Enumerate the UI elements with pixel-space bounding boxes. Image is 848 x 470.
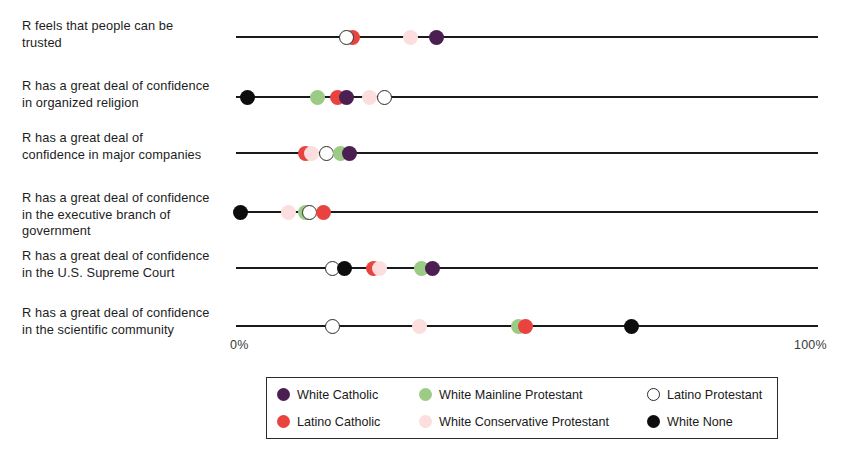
row-axis <box>236 24 818 50</box>
legend-label: White Catholic <box>297 388 378 402</box>
legend-item[interactable]: Latino Catholic <box>277 415 419 429</box>
row-label: R has a great deal of confidence in orga… <box>22 78 234 111</box>
legend-swatch-icon <box>277 415 290 428</box>
row-axis <box>236 84 818 110</box>
row-axis <box>236 199 818 225</box>
row-label: R has a great deal of confidence in the … <box>22 248 234 281</box>
data-point[interactable] <box>337 261 352 276</box>
data-point[interactable] <box>362 90 377 105</box>
row-label: R has a great deal of confidence in the … <box>22 190 234 240</box>
data-point[interactable] <box>304 146 319 161</box>
legend-label: Latino Catholic <box>297 415 380 429</box>
row-label: R has a great deal of confidence in the … <box>22 305 234 338</box>
data-point[interactable] <box>377 90 392 105</box>
legend-item[interactable]: Latino Protestant <box>647 388 789 402</box>
row-axis <box>236 313 818 339</box>
data-point[interactable] <box>342 146 357 161</box>
legend-item[interactable]: White Mainline Protestant <box>419 388 647 402</box>
legend-swatch-icon <box>419 415 432 428</box>
data-point[interactable] <box>624 319 639 334</box>
row-axis <box>236 255 818 281</box>
axis-line <box>236 267 818 269</box>
legend-item[interactable]: White Catholic <box>277 388 419 402</box>
axis-tick-left: 0% <box>230 338 248 352</box>
legend-swatch-icon <box>647 388 660 401</box>
row-label: R feels that people can be trusted <box>22 18 234 51</box>
legend-swatch-icon <box>277 388 290 401</box>
data-point[interactable] <box>339 90 354 105</box>
data-point[interactable] <box>316 205 331 220</box>
data-point[interactable] <box>429 30 444 45</box>
legend-swatch-icon <box>419 388 432 401</box>
data-point[interactable] <box>240 90 255 105</box>
legend-label: White Mainline Protestant <box>439 388 583 402</box>
row-label: R has a great deal of confidence in majo… <box>22 130 234 163</box>
chart-legend: White CatholicWhite Mainline ProtestantL… <box>266 377 778 439</box>
data-point[interactable] <box>310 90 325 105</box>
data-point[interactable] <box>281 205 296 220</box>
data-point[interactable] <box>372 261 387 276</box>
legend-item[interactable]: White None <box>647 415 789 429</box>
data-point[interactable] <box>319 146 334 161</box>
dot-plot-chart: R feels that people can be trustedR has … <box>0 0 848 470</box>
axis-line <box>236 36 818 38</box>
data-point[interactable] <box>412 319 427 334</box>
row-axis <box>236 140 818 166</box>
legend-label: Latino Protestant <box>667 388 762 402</box>
data-point[interactable] <box>325 319 340 334</box>
legend-grid: White CatholicWhite Mainline ProtestantL… <box>267 378 777 438</box>
data-point[interactable] <box>518 319 533 334</box>
data-point[interactable] <box>403 30 418 45</box>
data-point[interactable] <box>425 261 440 276</box>
axis-tick-right: 100% <box>794 338 827 352</box>
legend-swatch-icon <box>647 415 660 428</box>
legend-label: White Conservative Protestant <box>439 415 609 429</box>
legend-label: White None <box>667 415 733 429</box>
data-point[interactable] <box>339 30 354 45</box>
legend-item[interactable]: White Conservative Protestant <box>419 415 647 429</box>
data-point[interactable] <box>233 205 248 220</box>
